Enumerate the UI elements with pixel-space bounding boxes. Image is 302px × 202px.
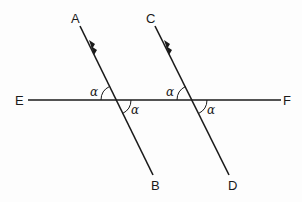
angle-label-ab-upper: α bbox=[90, 85, 98, 99]
diagram-svg: A C E F B D α α α α bbox=[0, 0, 302, 202]
label-a: A bbox=[71, 11, 80, 26]
label-f: F bbox=[283, 93, 291, 108]
angle-label-ab-lower: α bbox=[131, 103, 139, 117]
angle-arc-cd-lower bbox=[199, 100, 208, 114]
angle-label-cd-lower: α bbox=[207, 103, 215, 117]
angle-arc-cd-upper bbox=[177, 87, 186, 101]
label-c: C bbox=[146, 11, 155, 26]
label-e: E bbox=[15, 93, 24, 108]
angle-arc-ab-upper bbox=[101, 87, 110, 101]
angle-arc-ab-lower bbox=[123, 100, 132, 114]
diagram-canvas: A C E F B D α α α α bbox=[0, 0, 302, 202]
angle-label-cd-upper: α bbox=[166, 85, 174, 99]
label-b: B bbox=[151, 178, 160, 193]
label-d: D bbox=[228, 178, 237, 193]
